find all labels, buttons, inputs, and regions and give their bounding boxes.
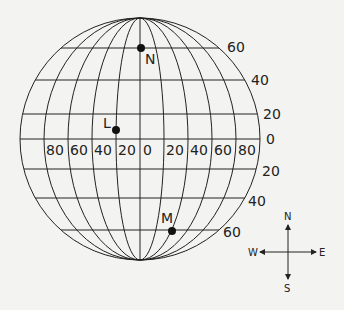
lon-label-60e: 60 bbox=[214, 142, 232, 158]
lat-label-20s: 20 bbox=[262, 163, 280, 179]
lon-label-80e: 80 bbox=[238, 142, 256, 158]
lat-label-40s: 40 bbox=[248, 193, 266, 209]
parallels bbox=[0, 48, 344, 230]
lon-label-60w: 60 bbox=[70, 142, 88, 158]
lon-label-80w: 80 bbox=[46, 142, 64, 158]
lon-label-0: 0 bbox=[143, 142, 152, 158]
compass-e-label: E bbox=[319, 247, 325, 258]
compass-s-label: S bbox=[284, 283, 290, 294]
lat-label-60n: 60 bbox=[227, 39, 245, 55]
lat-label-60s: 60 bbox=[223, 224, 241, 240]
point-m-marker bbox=[168, 227, 176, 235]
longitude-labels: 80 60 40 20 0 20 40 60 80 bbox=[46, 142, 256, 158]
compass-n-label: N bbox=[284, 211, 291, 222]
point-n-marker bbox=[137, 44, 145, 52]
lat-label-0: 0 bbox=[266, 131, 275, 147]
lon-label-40w: 40 bbox=[94, 142, 112, 158]
point-l-label: L bbox=[103, 115, 111, 131]
lat-label-40n: 40 bbox=[251, 72, 269, 88]
point-m: M bbox=[161, 210, 176, 235]
point-n-label: N bbox=[145, 51, 155, 67]
compass-rose bbox=[260, 225, 316, 279]
lon-label-40e: 40 bbox=[190, 142, 208, 158]
compass-w-label: W bbox=[248, 247, 258, 258]
lon-label-20e: 20 bbox=[166, 142, 184, 158]
point-l: L bbox=[103, 115, 120, 134]
point-l-marker bbox=[112, 126, 120, 134]
point-m-label: M bbox=[161, 210, 173, 226]
lat-label-20n: 20 bbox=[263, 106, 281, 122]
lon-label-20w: 20 bbox=[118, 142, 136, 158]
globe-diagram: 60 40 20 0 20 40 60 80 60 40 20 0 20 40 … bbox=[0, 0, 344, 310]
